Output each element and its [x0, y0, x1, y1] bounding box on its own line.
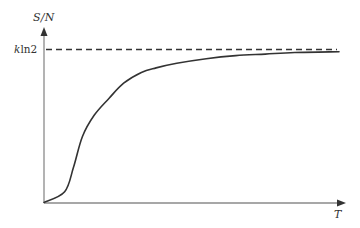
y-axis-arrow-icon: [41, 27, 48, 36]
x-axis-label: T: [334, 209, 341, 220]
chart-svg: [0, 0, 360, 228]
ref-label-ln2: ln2: [20, 43, 37, 55]
x-axis-arrow-icon: [337, 200, 346, 207]
chart: S/N T kln2: [0, 0, 360, 228]
y-axis-label: S/N: [33, 12, 55, 23]
data-curve: [44, 52, 339, 203]
reference-line-label: kln2: [14, 44, 37, 55]
